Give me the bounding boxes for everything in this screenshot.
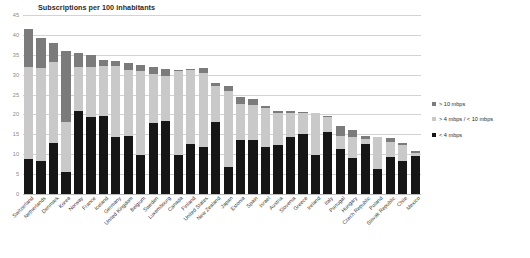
bar-netherlands[interactable] xyxy=(36,15,45,194)
legend-item-mid[interactable]: > 4 mbps / < 10 mbps xyxy=(432,116,528,123)
bar-poland[interactable] xyxy=(373,15,382,194)
bar-hungary[interactable] xyxy=(348,15,357,194)
y-tick-label: 10 xyxy=(13,151,19,157)
bar-segment-mid xyxy=(398,145,407,161)
x-tick-label: Spain xyxy=(245,195,259,209)
bar-segment-low xyxy=(86,117,95,194)
x-label-slot: Sweden xyxy=(149,194,158,258)
bar-segment-low xyxy=(211,122,220,194)
x-label-slot: Italy xyxy=(323,194,332,258)
legend-label: < 4 mbps xyxy=(439,132,462,138)
bar-segment-low xyxy=(273,145,282,194)
bar-segment-mid xyxy=(298,113,307,134)
bar-belgium[interactable] xyxy=(136,15,145,194)
x-label-slot: New Zealand xyxy=(211,194,220,258)
bar-segment-high xyxy=(124,63,133,70)
bar-segment-mid xyxy=(286,113,295,137)
bar-luxembourg[interactable] xyxy=(161,15,170,194)
bar-segment-mid xyxy=(386,142,395,158)
bar-segment-high xyxy=(74,53,83,67)
bar-france[interactable] xyxy=(86,15,95,194)
bar-ireland[interactable] xyxy=(311,15,320,194)
bar-segment-high xyxy=(161,69,170,76)
x-label-slot: Poland xyxy=(373,194,382,258)
x-label-slot: Hungary xyxy=(348,194,357,258)
bar-switzerland[interactable] xyxy=(24,15,33,194)
bar-spain[interactable] xyxy=(248,15,257,194)
bar-segment-mid xyxy=(199,73,208,147)
bar-segment-mid xyxy=(99,66,108,115)
bar-segment-low xyxy=(149,123,158,194)
bar-mexico[interactable] xyxy=(411,15,420,194)
bar-canada[interactable] xyxy=(174,15,183,194)
bar-austria[interactable] xyxy=(273,15,282,194)
x-label-slot: Korea xyxy=(61,194,70,258)
x-label-slot: Israel xyxy=(261,194,270,258)
bar-segment-high xyxy=(86,55,95,67)
chart-root: Subscriptions per 100 inhabitants 051015… xyxy=(0,0,530,258)
legend-label: > 4 mbps / < 10 mbps xyxy=(439,116,493,122)
legend-item-low[interactable]: < 4 mbps xyxy=(432,131,528,138)
bar-segment-mid xyxy=(49,62,58,143)
bar-segment-high xyxy=(348,130,357,137)
bar-korea[interactable] xyxy=(61,15,70,194)
bar-segment-mid xyxy=(248,105,257,140)
bar-norway[interactable] xyxy=(74,15,83,194)
bar-segment-low xyxy=(323,132,332,194)
y-tick-label: 25 xyxy=(13,92,19,98)
y-tick-label: 45 xyxy=(13,12,19,18)
bar-segment-low xyxy=(286,137,295,194)
bar-segment-high xyxy=(336,126,345,136)
bar-segment-high xyxy=(36,38,45,68)
bar-segment-high xyxy=(61,51,70,121)
bar-finland[interactable] xyxy=(186,15,195,194)
bar-segment-low xyxy=(298,134,307,194)
bar-segment-mid xyxy=(61,122,70,172)
bar-segment-low xyxy=(199,147,208,194)
bar-greece[interactable] xyxy=(298,15,307,194)
bar-segment-mid xyxy=(373,137,382,169)
bar-denmark[interactable] xyxy=(49,15,58,194)
x-label-slot: Luxembourg xyxy=(161,194,170,258)
x-label-slot: Mexico xyxy=(411,194,420,258)
bar-slovenia[interactable] xyxy=(286,15,295,194)
bar-italy[interactable] xyxy=(323,15,332,194)
bar-segment-mid xyxy=(161,76,170,121)
x-label-slot: Chile xyxy=(398,194,407,258)
x-label-slot: Netherlands xyxy=(36,194,45,258)
bar-portugal[interactable] xyxy=(336,15,345,194)
bar-israel[interactable] xyxy=(261,15,270,194)
bar-segment-mid xyxy=(273,113,282,145)
bar-segment-mid xyxy=(111,66,120,137)
x-label-slot: Slovak Republic xyxy=(386,194,395,258)
bar-segment-low xyxy=(174,155,183,194)
bar-united-kingdom[interactable] xyxy=(124,15,133,194)
bar-germany[interactable] xyxy=(111,15,120,194)
bar-segment-low xyxy=(411,156,420,194)
bar-segment-low xyxy=(311,155,320,194)
bar-new-zealand[interactable] xyxy=(211,15,220,194)
x-label-slot: Slovenia xyxy=(286,194,295,258)
x-label-slot: Norway xyxy=(74,194,83,258)
x-label-slot: Germany xyxy=(111,194,120,258)
x-tick-label: Ireland xyxy=(306,195,322,211)
bar-japan[interactable] xyxy=(224,15,233,194)
legend-item-high[interactable]: > 10 mbps xyxy=(432,100,528,107)
bar-segment-high xyxy=(149,67,158,74)
bar-estonia[interactable] xyxy=(236,15,245,194)
legend-label: > 10 mbps xyxy=(439,101,465,107)
bar-united-states[interactable] xyxy=(199,15,208,194)
y-tick-label: 0 xyxy=(16,191,19,197)
x-label-slot: Ireland xyxy=(311,194,320,258)
bar-chile[interactable] xyxy=(398,15,407,194)
bar-segment-mid xyxy=(186,70,195,144)
bar-sweden[interactable] xyxy=(149,15,158,194)
bar-segment-mid xyxy=(74,67,83,112)
legend-swatch-icon xyxy=(432,117,436,121)
bar-iceland[interactable] xyxy=(99,15,108,194)
bar-slovak-republic[interactable] xyxy=(386,15,395,194)
bar-segment-low xyxy=(61,172,70,194)
bar-czech-republic[interactable] xyxy=(361,15,370,194)
x-label-slot: Estonia xyxy=(236,194,245,258)
bar-segment-high xyxy=(24,29,33,66)
